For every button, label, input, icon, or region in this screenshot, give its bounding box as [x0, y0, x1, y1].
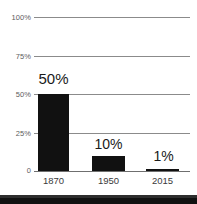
bar-1950 — [92, 156, 125, 171]
xtick-label-1950: 1950 — [88, 176, 129, 186]
plot-area: 100% 75% 50% 25% 0 50% 10% 1% 1870 1950 … — [0, 0, 197, 182]
bottom-strip — [0, 195, 197, 204]
bottom-strip-highlight — [0, 195, 197, 198]
ytick-label-50: 50% — [0, 91, 31, 99]
xtick-label-2015: 2015 — [142, 176, 183, 186]
gridline-75 — [34, 56, 190, 57]
axis-line-zero — [34, 171, 190, 172]
ytick-label-0: 0 — [0, 167, 31, 175]
bar-2015 — [146, 169, 179, 171]
ytick-label-25: 25% — [0, 130, 31, 138]
bar-value-2015: 1% — [143, 149, 184, 163]
bar-value-1870: 50% — [33, 71, 74, 86]
ytick-label-100: 100% — [0, 14, 31, 22]
bar-1870 — [38, 94, 69, 171]
bar-value-1950: 10% — [88, 137, 129, 151]
ytick-label-75: 75% — [0, 53, 31, 61]
xtick-label-1870: 1870 — [33, 176, 74, 186]
gridline-100 — [34, 17, 190, 18]
bar-chart: 100% 75% 50% 25% 0 50% 10% 1% 1870 1950 … — [0, 0, 197, 204]
